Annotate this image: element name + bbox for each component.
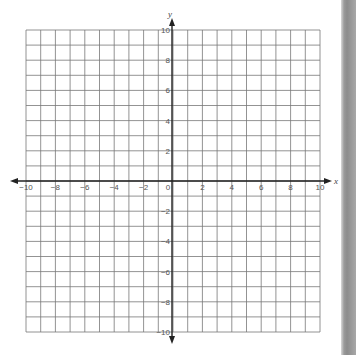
y-tick-label: 2 [166,147,171,156]
coordinate-plane: x y −10−8−6−4−20246810108642−2−4−6−8−10 [0,0,356,355]
y-axis-up-arrow-icon [169,18,175,26]
y-tick-label: 6 [166,86,171,95]
x-axis-left-arrow-icon [10,178,18,184]
x-tick-label: −10 [19,183,33,192]
x-tick-label: 4 [230,183,235,192]
y-tick-label: −4 [161,237,171,246]
x-tick-label: 6 [259,183,264,192]
x-tick-label: −6 [80,183,90,192]
axes: x y [10,9,338,344]
y-tick-label: −10 [156,328,170,337]
y-tick-label: −8 [161,298,171,307]
x-axis-right-arrow-icon [324,178,332,184]
x-tick-label: 8 [288,183,293,192]
x-tick-label: −4 [110,183,120,192]
x-tick-label: 2 [200,183,205,192]
x-axis-label: x [333,176,338,186]
y-tick-label: 8 [166,56,171,65]
y-axis-down-arrow-icon [169,336,175,344]
y-tick-label: 10 [161,26,170,35]
y-tick-label: −2 [161,207,171,216]
y-tick-label: 4 [166,117,171,126]
y-tick-label: −6 [161,268,171,277]
x-tick-label: −8 [51,183,61,192]
x-tick-label: 10 [316,183,325,192]
x-tick-label: −2 [139,183,149,192]
x-tick-label: 0 [166,183,171,192]
y-axis-label: y [167,9,172,19]
